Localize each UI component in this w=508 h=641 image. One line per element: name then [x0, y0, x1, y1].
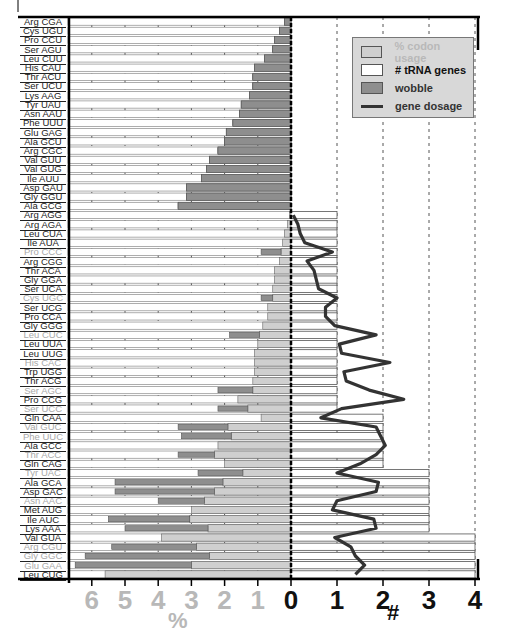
codon-usage-bar	[254, 368, 291, 375]
trna-genes-bar	[291, 469, 429, 476]
codon-usage-bar	[274, 276, 291, 283]
row-background	[68, 18, 291, 25]
x-axis-title-percent: %	[168, 608, 188, 634]
legend: % codon usage # tRNA genes wobble gene d…	[352, 37, 474, 118]
codon-usage-bar	[258, 340, 291, 347]
codon-usage-bar	[268, 313, 291, 320]
codon-usage-bar	[225, 460, 291, 467]
trna-genes-bar	[291, 442, 383, 449]
wobble-bar	[75, 563, 191, 568]
wobble-bar	[112, 544, 197, 549]
codon-usage-bar	[259, 331, 291, 338]
wobble-bar	[125, 526, 208, 531]
wobble-bar	[186, 193, 291, 200]
wobble-bar	[206, 165, 291, 172]
wobble-bar	[201, 175, 291, 182]
row-background	[68, 267, 291, 274]
legend-label: gene dosage	[395, 100, 462, 112]
codon-usage-bar	[223, 479, 291, 486]
row-background	[68, 322, 291, 329]
row-background	[68, 276, 291, 283]
x-tick-label: 1	[243, 587, 273, 613]
trna-genes-bar	[291, 552, 475, 559]
codon-usage-chart: Arg CGACys UGUPro CCUSer AGULeu CUUHis C…	[0, 0, 508, 641]
codon-usage-bar	[268, 304, 291, 311]
codon-usage-bar	[215, 488, 291, 495]
codon-usage-bar	[253, 387, 291, 394]
trna-genes-bar	[291, 368, 337, 375]
codon-usage-bar	[205, 497, 291, 504]
x-tick-label: 2	[210, 587, 240, 613]
codon-usage-bar	[238, 396, 291, 403]
legend-label: % codon usage	[394, 40, 473, 64]
trna-genes-bar	[291, 460, 383, 467]
codon-usage-bar	[243, 469, 291, 476]
codon-usage-swatch	[361, 46, 382, 58]
codon-usage-bar	[105, 571, 291, 578]
codon-usage-bar	[274, 267, 291, 274]
row-background	[68, 294, 291, 301]
codon-usage-bar	[190, 516, 291, 523]
codon-usage-bar	[263, 322, 291, 329]
wobble-bar	[210, 156, 291, 163]
codon-usage-bar	[191, 562, 291, 569]
x-tick-label: 3	[414, 587, 444, 613]
x-tick-label: 1	[322, 587, 352, 613]
trna-genes-bar	[291, 230, 337, 237]
trna-genes-bar	[291, 331, 337, 338]
legend-item-trna-genes: # tRNA genes	[361, 62, 466, 78]
wobble-bar	[225, 138, 291, 145]
codon-usage-bar	[273, 294, 291, 301]
legend-item-gene-dosage: gene dosage	[361, 98, 462, 114]
row-background	[68, 46, 291, 53]
wobble-bar	[233, 119, 291, 126]
row-background	[68, 27, 291, 34]
codon-usage-bar	[254, 359, 291, 366]
trna-genes-bar	[291, 534, 475, 541]
wobble-bar	[108, 517, 189, 522]
wobble-swatch	[361, 82, 383, 94]
x-tick-label: 6	[77, 587, 107, 613]
wobble-bar	[178, 452, 215, 457]
row-background	[68, 230, 291, 237]
row-background	[68, 285, 291, 292]
trna-genes-bar	[291, 276, 337, 283]
row-background	[68, 239, 291, 246]
trna-genes-bar	[291, 350, 337, 357]
trna-genes-swatch	[361, 64, 383, 76]
wobble-bar	[261, 295, 273, 300]
wobble-bar	[158, 498, 204, 503]
x-tick-label: 0	[276, 587, 306, 613]
codon-label: Leu CUG	[20, 569, 66, 581]
wobble-bar	[85, 553, 210, 558]
legend-item-codon-usage: % codon usage	[361, 44, 473, 60]
codon-usage-bar	[218, 442, 291, 449]
wobble-bar	[279, 27, 291, 34]
trna-genes-bar	[291, 211, 337, 218]
row-background	[68, 414, 291, 421]
wobble-bar	[198, 470, 243, 475]
wobble-bar	[273, 46, 291, 53]
row-background	[68, 55, 291, 62]
codon-usage-bar	[231, 433, 291, 440]
wobble-bar	[226, 129, 291, 136]
legend-label: wobble	[395, 82, 433, 94]
wobble-bar	[274, 36, 291, 43]
trna-genes-bar	[291, 396, 337, 403]
trna-genes-bar	[291, 562, 475, 569]
trna-genes-bar	[291, 387, 337, 394]
codon-usage-bar	[162, 534, 291, 541]
trna-genes-bar	[291, 405, 337, 412]
codon-usage-bar	[196, 543, 291, 550]
trna-genes-bar	[291, 285, 337, 292]
wobble-bar	[218, 406, 248, 411]
row-background	[68, 221, 291, 228]
wobble-bar	[264, 55, 291, 62]
wobble-bar	[218, 147, 291, 154]
wobble-bar	[181, 434, 231, 439]
wobble-bar	[254, 64, 291, 71]
wobble-bar	[241, 101, 291, 108]
codon-usage-bar	[273, 285, 291, 292]
wobble-bar	[261, 249, 281, 254]
trna-genes-bar	[291, 340, 337, 347]
